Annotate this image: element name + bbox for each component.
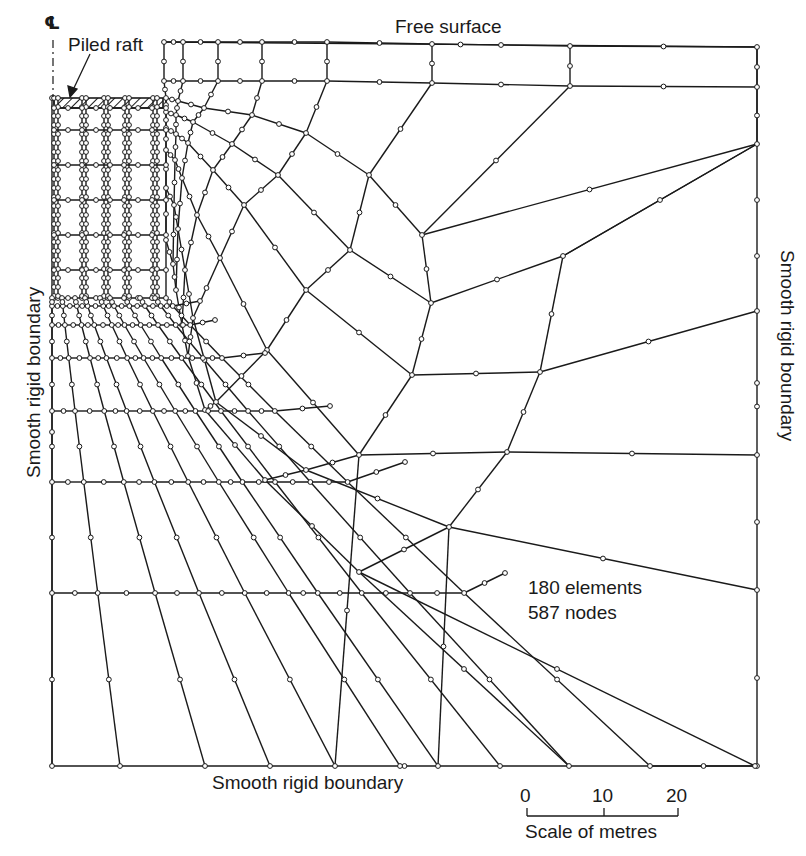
centerline-symbol: ℄ <box>44 14 60 32</box>
left-boundary-label: Smooth rigid boundary <box>24 287 43 478</box>
bottom-boundary-label: Smooth rigid boundary <box>212 773 403 792</box>
mesh-nodes <box>50 40 760 769</box>
scale-tick-0: 0 <box>520 786 531 805</box>
scale-bar-label: Scale of metres <box>525 822 657 841</box>
finite-element-mesh-figure <box>0 0 806 856</box>
scale-bar <box>527 808 678 816</box>
mesh-elements-count: 180 elements <box>528 578 642 597</box>
free-surface-label: Free surface <box>395 17 502 36</box>
piled-raft-label: Piled raft <box>68 35 143 54</box>
right-boundary-label: Smooth rigid boundary <box>778 250 797 441</box>
mesh-nodes-count: 587 nodes <box>528 603 617 622</box>
scale-tick-10: 10 <box>592 786 613 805</box>
piled-raft-arrow <box>68 54 90 97</box>
scale-tick-20: 20 <box>666 786 687 805</box>
